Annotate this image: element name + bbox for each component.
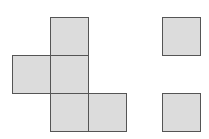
square-a-center bbox=[50, 55, 89, 94]
square-a-top bbox=[50, 17, 89, 56]
square-a-bottom-right bbox=[88, 93, 127, 132]
square-b-bottom bbox=[162, 93, 201, 132]
square-a-bottom bbox=[50, 93, 89, 132]
square-a-left bbox=[12, 55, 51, 94]
square-b-top bbox=[162, 17, 201, 56]
